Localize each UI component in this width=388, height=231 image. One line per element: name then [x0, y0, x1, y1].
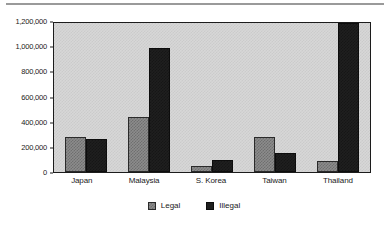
plot-area [53, 22, 371, 173]
bar-group [254, 23, 296, 172]
chart-legend: Legal Illegal [0, 201, 388, 210]
x-tick-label: S. Korea [196, 176, 226, 186]
bar-group [317, 23, 359, 172]
x-tick-label: Thailand [323, 176, 353, 186]
y-tick-label: 1,200,000 [15, 18, 47, 26]
y-tick-label: 200,000 [21, 144, 47, 152]
x-tick-label: Japan [71, 176, 92, 186]
y-tick-label: 0 [43, 169, 47, 177]
bar-illegal-japan [86, 139, 107, 172]
bar-legal-malaysia [128, 117, 149, 172]
bar-chart-figure: 1,200,000 1,000,000 800,000 600,000 400,… [0, 0, 388, 231]
y-tick-label: 400,000 [21, 119, 47, 127]
bar-legal-thailand [317, 161, 338, 172]
bar-group [128, 23, 170, 172]
bar-illegal-s-korea [212, 160, 233, 172]
x-axis: JapanMalaysiaS. KoreaTaiwanThailand [53, 176, 371, 192]
bar-legal-taiwan [254, 137, 275, 172]
bar-legal-s-korea [191, 166, 212, 172]
x-tick-label: Taiwan [262, 176, 286, 186]
bar-illegal-malaysia [149, 48, 170, 172]
bar-group [65, 23, 107, 172]
bar-illegal-thailand [338, 23, 359, 172]
legend-item-illegal: Illegal [206, 201, 240, 210]
bar-group [191, 23, 233, 172]
legend-item-legal: Legal [148, 201, 181, 210]
bar-illegal-taiwan [275, 153, 296, 172]
legend-label: Illegal [219, 201, 240, 210]
legend-label: Legal [161, 201, 181, 210]
scan-artifact-line [6, 3, 384, 5]
y-tick-label: 800,000 [21, 68, 47, 76]
y-axis: 1,200,000 1,000,000 800,000 600,000 400,… [0, 22, 49, 173]
y-tick-label: 600,000 [21, 94, 47, 102]
bar-legal-japan [65, 137, 86, 172]
x-tick-label: Malaysia [129, 176, 160, 186]
legend-swatch-icon [148, 202, 156, 210]
legend-swatch-icon [206, 202, 214, 210]
bars-layer [54, 23, 370, 172]
y-tick-label: 1,000,000 [15, 43, 47, 51]
